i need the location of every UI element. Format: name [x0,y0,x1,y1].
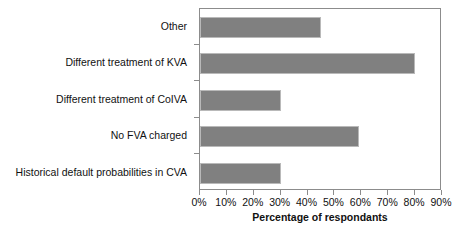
x-axis-tick-label-9: 90% [421,196,461,208]
x-axis-tick-0 [199,190,200,195]
bar-coiva [200,90,281,111]
x-axis-tick-8 [414,190,415,195]
x-axis-tick-2 [253,190,254,195]
category-axis-labels: Other Different treatment of KVA Differe… [0,8,193,190]
x-axis-title: Percentage of respondants [199,211,441,223]
x-axis-tick-1 [226,190,227,195]
x-axis-tick-4 [307,190,308,195]
bar-historical-pd [200,163,281,184]
bar-kva [200,53,415,74]
bars-layer [200,9,440,189]
bar-other [200,17,321,38]
category-label-coiva: Different treatment of CoIVA [56,93,187,105]
category-label-historical-pd: Historical default probabilities in CVA [16,166,187,178]
bar-chart: Other Different treatment of KVA Differe… [0,0,462,234]
bar-no-fva [200,126,359,147]
x-axis-tick-6 [360,190,361,195]
category-label-no-fva: No FVA charged [111,129,187,141]
x-axis-tick-3 [280,190,281,195]
category-label-other: Other [161,20,187,32]
plot-area [199,8,441,190]
x-axis-tick-7 [387,190,388,195]
category-label-kva: Different treatment of KVA [65,56,187,68]
x-axis-tick-9 [441,190,442,195]
x-axis-tick-5 [333,190,334,195]
